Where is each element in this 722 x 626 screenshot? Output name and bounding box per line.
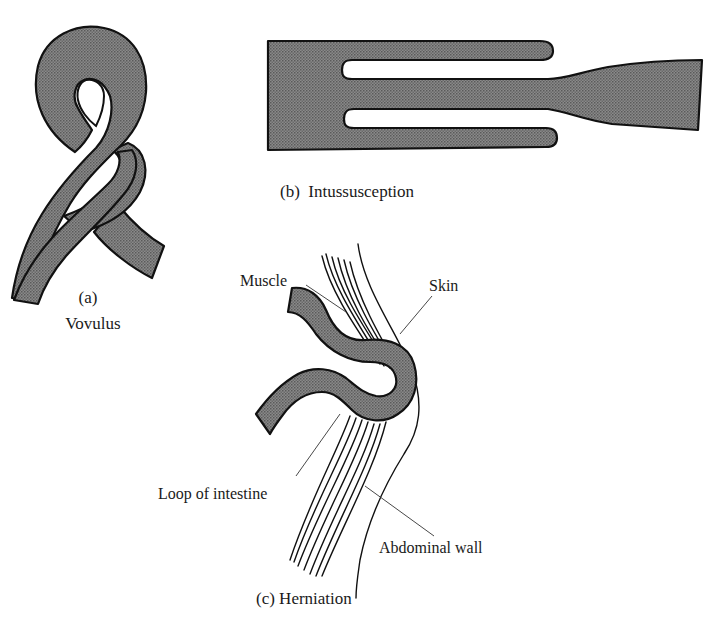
panel-b-intussusception: (b) Intussusception	[268, 41, 702, 201]
skin-leader	[400, 296, 432, 334]
panel-a-volvulus: (a) Vovulus	[12, 27, 164, 333]
muscle-fibers-lower	[290, 416, 386, 576]
skin-label: Skin	[429, 277, 458, 294]
intestine-loop	[256, 288, 416, 434]
intussusception-caption: (b) Intussusception	[280, 182, 415, 201]
herniation-caption: (c) Herniation	[256, 589, 352, 608]
loop-leader	[296, 414, 340, 476]
volvulus-title: Vovulus	[65, 314, 120, 333]
wall-label: Abdominal wall	[379, 539, 483, 556]
intestinal-obstruction-diagram: (a) Vovulus (b) Intussusception	[0, 0, 722, 626]
volvulus-letter: (a)	[79, 288, 98, 307]
muscle-label: Muscle	[240, 272, 287, 289]
panel-c-herniation: Muscle Skin Loop of intestine Abdominal …	[158, 244, 483, 608]
loop-label: Loop of intestine	[158, 485, 267, 503]
intussusception-outer-tube	[268, 41, 702, 150]
